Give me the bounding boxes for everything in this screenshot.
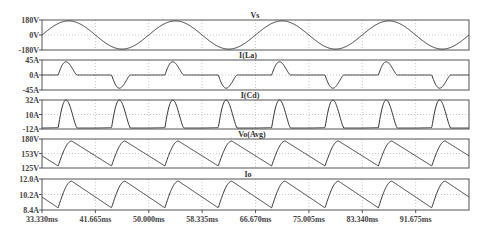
x-tick-label: 83.340ms — [346, 215, 378, 224]
y-tick-label: 10A — [25, 111, 39, 120]
panel-icd: 32A10A-12AI(Cd) — [23, 91, 469, 134]
y-tick-label: 180V — [21, 135, 39, 144]
x-tick-label: 58.335ms — [186, 215, 218, 224]
panel-title: Io — [244, 170, 251, 179]
y-tick-label: 0A — [29, 71, 39, 80]
panel-title: I(La) — [239, 51, 257, 60]
y-tick-label: 180V — [21, 16, 39, 25]
panel-title: Vs — [251, 11, 260, 20]
y-tick-label: 12.0A — [19, 175, 39, 184]
panel-ila: 45A0A-45AI(La) — [23, 51, 469, 95]
y-tick-label: -180V — [19, 46, 40, 55]
x-tick-label: 66.670ms — [240, 215, 272, 224]
panel-voavg: 180V153V125VVo(Avg) — [21, 130, 469, 173]
y-tick-label: 153V — [21, 150, 39, 159]
waveform-chart: 180V0V-180VVs45A0A-45AI(La)32A10A-12AI(C… — [0, 0, 487, 234]
panel-io: 12.0A10.2A8.4AIo — [19, 170, 469, 215]
x-tick-label: 41.665ms — [79, 215, 111, 224]
y-tick-label: 10.2A — [19, 191, 39, 200]
x-tick-label: 33.330ms — [26, 215, 58, 224]
waveform-trace — [42, 100, 469, 128]
y-tick-label: 45A — [25, 56, 39, 65]
y-tick-label: -45A — [23, 86, 40, 95]
x-tick-label: 50.000ms — [133, 215, 165, 224]
y-tick-label: -12A — [23, 125, 40, 134]
x-tick-label: 91.675ms — [400, 215, 432, 224]
panel-title: I(Cd) — [241, 91, 260, 100]
y-tick-label: 0V — [29, 31, 39, 40]
x-tick-label: 75.005ms — [293, 215, 325, 224]
y-tick-label: 8.4A — [23, 206, 39, 215]
y-tick-label: 32A — [25, 96, 39, 105]
panel-title: Vo(Avg) — [238, 130, 266, 139]
panel-vs: 180V0V-180VVs — [19, 11, 469, 55]
y-tick-label: 125V — [21, 164, 39, 173]
